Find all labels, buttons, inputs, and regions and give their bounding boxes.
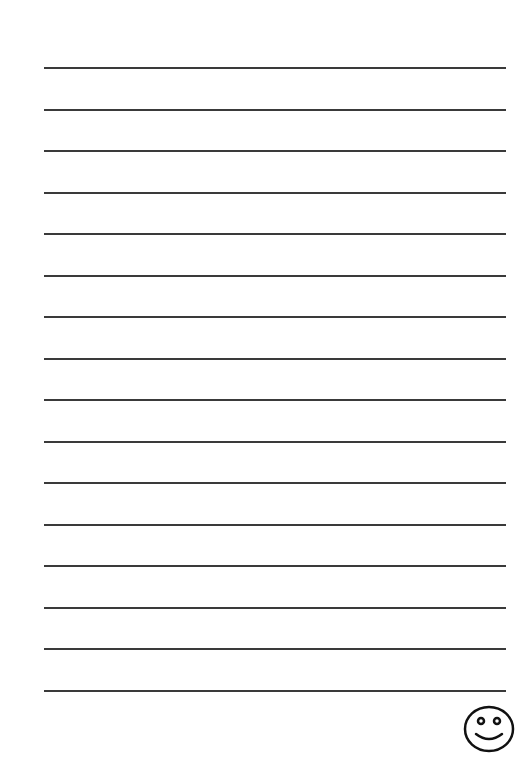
ruled-line [44,565,506,567]
ruled-line [44,648,506,650]
ruled-line [44,524,506,526]
ruled-line [44,67,506,69]
ruled-line [44,441,506,443]
ruled-line [44,150,506,152]
ruled-line [44,233,506,235]
ruled-line [44,109,506,111]
ruled-line [44,399,506,401]
ruled-line [44,275,506,277]
ruled-line [44,316,506,318]
ruled-line [44,607,506,609]
lined-paper [0,0,521,765]
smiley-face-icon [462,704,516,754]
ruled-line [44,358,506,360]
ruled-line [44,192,506,194]
ruled-line [44,482,506,484]
ruled-line [44,690,506,692]
